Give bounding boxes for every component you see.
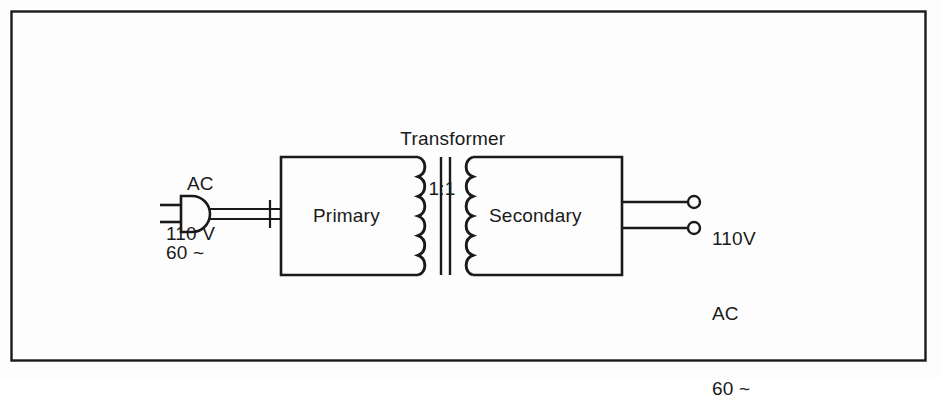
input-type-label: AC xyxy=(187,173,214,194)
power-cord xyxy=(208,200,281,228)
output-frequency-label: 60 ~ xyxy=(712,376,756,399)
output-voltage-label: 110V xyxy=(712,226,756,251)
transformer-ratio-label: 1:1 xyxy=(377,176,507,201)
output-terminal-bottom xyxy=(688,222,700,234)
transformer-label: Transformer 1:1 xyxy=(377,101,507,251)
output-type-label: AC xyxy=(712,301,756,326)
output-supply-label: 110V AC 60 ~ xyxy=(712,176,756,399)
output-terminal-top xyxy=(688,196,700,208)
input-supply-label: AC 110 V xyxy=(166,146,215,296)
transformer-label-line1: Transformer xyxy=(400,128,505,149)
input-frequency-label: 60 ~ xyxy=(166,240,204,265)
secondary-label: Secondary xyxy=(489,203,582,228)
primary-label: Primary xyxy=(313,203,380,228)
output-leads xyxy=(622,196,700,234)
